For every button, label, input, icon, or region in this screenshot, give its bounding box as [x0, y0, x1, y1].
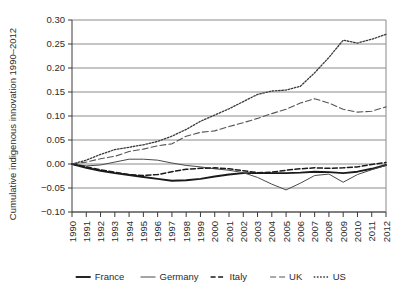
- x-tick-label: 2006: [295, 221, 306, 242]
- x-tick-label: 1996: [152, 221, 163, 242]
- y-tick-label: −0.10: [41, 206, 65, 217]
- legend-label-germany: Germany: [160, 271, 199, 282]
- x-tick-label: 2007: [309, 221, 320, 242]
- y-axis-title-group: Cumulative indigenous innovation 1990–20…: [7, 28, 18, 220]
- gridlines: [72, 20, 386, 212]
- x-tick-label: 2002: [238, 221, 249, 242]
- x-tick-label: 1995: [138, 221, 149, 242]
- y-tick-label: 0.10: [47, 110, 66, 121]
- y-tick-label: 0.05: [47, 134, 66, 145]
- y-tick-label: −0.05: [41, 182, 65, 193]
- chart-legend: FranceGermanyItalyUKUS: [76, 271, 346, 282]
- x-tick-label: 1997: [166, 221, 177, 242]
- x-tick-label: 1999: [195, 221, 206, 242]
- x-axis-ticks: 1990199119921993199419951996199719981999…: [67, 212, 392, 242]
- x-tick-label: 2000: [209, 221, 220, 242]
- x-tick-label: 1993: [109, 221, 120, 242]
- line-chart: Cumulative indigenous innovation 1990–20…: [0, 0, 411, 295]
- x-tick-label: 1990: [67, 221, 78, 242]
- legend-label-italy: Italy: [230, 271, 248, 282]
- x-tick-label: 2003: [252, 221, 263, 242]
- legend-label-uk: UK: [289, 271, 303, 282]
- data-series-group: [72, 34, 386, 190]
- y-tick-label: 0.30: [47, 14, 66, 25]
- legend-label-france: France: [95, 271, 125, 282]
- x-tick-label: 2009: [338, 221, 349, 242]
- y-tick-label: 0.00: [47, 158, 66, 169]
- x-tick-label: 1998: [181, 221, 192, 242]
- series-line-us: [72, 34, 386, 164]
- chart-figure: Cumulative indigenous innovation 1990–20…: [0, 0, 411, 295]
- x-tick-label: 2004: [266, 221, 277, 242]
- x-tick-label: 2008: [323, 221, 334, 242]
- x-tick-label: 2010: [352, 221, 363, 242]
- x-tick-label: 1991: [81, 221, 92, 242]
- x-tick-label: 2005: [281, 221, 292, 242]
- x-tick-label: 1994: [124, 221, 135, 242]
- x-tick-label: 2012: [381, 221, 392, 242]
- y-tick-label: 0.25: [47, 38, 66, 49]
- y-tick-label: 0.15: [47, 86, 66, 97]
- x-tick-label: 2011: [366, 221, 377, 241]
- y-axis-title: Cumulative indigenous innovation 1990–20…: [7, 28, 18, 220]
- x-tick-label: 2001: [224, 221, 235, 242]
- legend-label-us: US: [333, 271, 346, 282]
- y-axis-ticks: 0.300.250.200.150.100.050.00−0.05−0.10: [41, 14, 72, 217]
- y-tick-label: 0.20: [47, 62, 66, 73]
- x-tick-label: 1992: [95, 221, 106, 242]
